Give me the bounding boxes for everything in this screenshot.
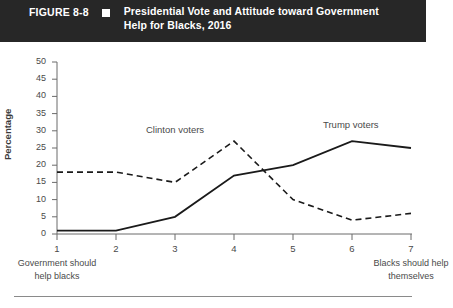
- x-axis-ticks: [57, 234, 411, 240]
- x-tick-label: 1: [45, 243, 69, 254]
- figure-number: FIGURE 8-8: [0, 0, 89, 18]
- x-tick-label: 4: [222, 243, 246, 254]
- y-tick-label: 25: [24, 142, 46, 152]
- x-tick-label: 7: [399, 243, 423, 254]
- y-tick-label: 50: [24, 56, 46, 66]
- y-tick-label: 45: [24, 73, 46, 83]
- series-line-clinton: [57, 141, 411, 220]
- square-bullet-icon: [102, 9, 110, 17]
- x-tick-label: 2: [104, 243, 128, 254]
- x-tick-label: 3: [163, 243, 187, 254]
- y-tick-label: 15: [24, 176, 46, 186]
- y-tick-label: 0: [24, 228, 46, 238]
- x-tick-label: 5: [281, 243, 305, 254]
- series-label-clinton: Clinton voters: [146, 124, 204, 135]
- y-tick-label: 30: [24, 125, 46, 135]
- y-tick-label: 5: [24, 211, 46, 221]
- y-tick-label: 10: [24, 194, 46, 204]
- figure-header: FIGURE 8-8 Presidential Vote and Attitud…: [0, 0, 426, 42]
- plot-area: Percentage: [0, 42, 426, 290]
- series-line-trump: [57, 141, 411, 231]
- figure-title: Presidential Vote and Attitude toward Go…: [124, 0, 392, 32]
- y-tick-label: 35: [24, 108, 46, 118]
- series-label-trump: Trump voters: [323, 119, 379, 130]
- y-tick-label: 20: [24, 159, 46, 169]
- y-axis-ticks: [52, 62, 57, 234]
- x-axis-anchor-high: Blacks should help themselves: [368, 257, 453, 282]
- footer-divider: [14, 296, 412, 297]
- x-axis-anchor-low: Government should help blacks: [14, 257, 100, 282]
- x-tick-label: 6: [340, 243, 364, 254]
- y-tick-label: 40: [24, 90, 46, 100]
